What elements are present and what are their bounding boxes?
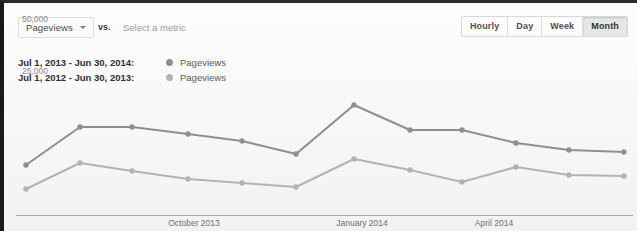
- granularity-hourly-button[interactable]: Hourly: [462, 17, 508, 36]
- legend-color-swatch: [166, 59, 173, 66]
- series-data-point[interactable]: Jan: 51800: [351, 102, 356, 107]
- series-data-point[interactable]: Nov: 38500: [239, 138, 244, 143]
- granularity-button-group: Hourly Day Week Month: [461, 16, 628, 37]
- legend-row-comparison[interactable]: Jul 1, 2012 - Jun 30, 2013: Pageviews: [18, 70, 226, 85]
- series-data-point[interactable]: Aug: 27600: [77, 160, 82, 165]
- legend-row-primary[interactable]: Jul 1, 2013 - Jun 30, 2014: Pageviews: [18, 55, 226, 70]
- x-axis-tick-label: January 2014: [336, 218, 388, 228]
- series-data-point[interactable]: May: 32900: [566, 147, 571, 152]
- legend-metric-name: Pageviews: [180, 72, 226, 83]
- compare-metric-selector[interactable]: Select a metric: [123, 22, 186, 33]
- series-line: [26, 105, 624, 165]
- granularity-day-button[interactable]: Day: [508, 17, 542, 36]
- series-data-point[interactable]: Oct: 41200: [185, 131, 190, 136]
- legend-color-swatch: [166, 74, 173, 81]
- series-data-point[interactable]: Oct: 23100: [185, 176, 190, 181]
- series-line: [26, 159, 624, 189]
- series-data-point[interactable]: Apr: 26100: [513, 164, 518, 169]
- series-data-point[interactable]: Feb: 25800: [407, 167, 412, 172]
- granularity-week-button[interactable]: Week: [542, 17, 583, 36]
- series-data-point[interactable]: Jun: 32400: [621, 149, 626, 154]
- series-data-point[interactable]: Nov: 22100: [239, 180, 244, 185]
- line-chart-svg: Jul: 26000Aug: 43500Sep: 43700Oct: 41200…: [4, 95, 637, 217]
- x-axis-tick-label: October 2013: [168, 218, 220, 228]
- series-data-point[interactable]: Sep: 43700: [129, 124, 134, 129]
- chart-toolbar: Pageviews vs. Select a metric Hourly Day…: [4, 3, 637, 45]
- chart-plot-area: Jul: 26000Aug: 43500Sep: 43700Oct: 41200…: [4, 95, 637, 217]
- x-axis-tick-labels: October 2013January 2014April 2014: [4, 218, 637, 231]
- analytics-chart-panel: Pageviews vs. Select a metric Hourly Day…: [0, 0, 637, 231]
- series-data-point[interactable]: May: 24200: [566, 172, 571, 177]
- series-data-point[interactable]: Mar: 39900: [459, 127, 464, 132]
- series-data-point[interactable]: Jul: 13500: [23, 186, 28, 191]
- series-data-point[interactable]: Aug: 43500: [77, 124, 82, 129]
- series-data-point[interactable]: Sep: 25400: [129, 168, 134, 173]
- chart-legend: Jul 1, 2013 - Jun 30, 2014: Pageviews Ju…: [18, 55, 226, 85]
- series-data-point[interactable]: Dec: 33900: [293, 151, 298, 156]
- legend-metric-name: Pageviews: [180, 57, 226, 68]
- series-data-point[interactable]: Dec: 21100: [293, 184, 298, 189]
- series-data-point[interactable]: Feb: 39900: [407, 127, 412, 132]
- series-data-point[interactable]: Apr: 35300: [513, 140, 518, 145]
- y-axis-tick-top: 50,000: [22, 14, 48, 24]
- x-axis-line: [16, 215, 633, 216]
- chevron-down-icon: [80, 26, 86, 29]
- vs-label: vs.: [98, 22, 111, 32]
- granularity-month-button[interactable]: Month: [583, 17, 627, 36]
- series-data-point[interactable]: Jan: 31500: [351, 156, 356, 161]
- series-data-point[interactable]: Jun: 24000: [621, 173, 626, 178]
- y-axis-tick-mid: 25,000: [22, 66, 48, 76]
- x-axis-tick-label: April 2014: [475, 218, 513, 228]
- series-data-point[interactable]: Jul: 26000: [23, 162, 28, 167]
- series-data-point[interactable]: Mar: 22600: [459, 179, 464, 184]
